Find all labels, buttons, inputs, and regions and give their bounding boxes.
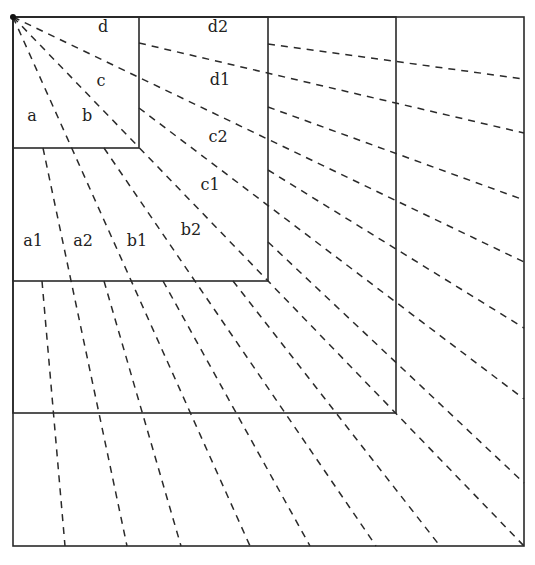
nested-squares-diagram: dcabd2d1c2c1b2a1a2b1	[0, 0, 535, 565]
region-label-c2: c2	[208, 127, 227, 146]
region-label-d2: d2	[208, 17, 228, 36]
dashed-ray-level-2	[139, 108, 524, 399]
region-label-b: b	[82, 106, 92, 125]
region-label-d1: d1	[210, 70, 230, 89]
dashed-ray-level-2	[139, 43, 524, 133]
origin-point	[10, 14, 16, 20]
region-label-b2: b2	[181, 220, 201, 239]
dashed-ray-level-2	[104, 148, 376, 546]
region-label-b1: b1	[127, 231, 147, 250]
region-label-c1: c1	[200, 175, 219, 194]
region-label-a1: a1	[23, 231, 43, 250]
region-label-c: c	[97, 71, 106, 90]
region-label-a2: a2	[73, 231, 93, 250]
region-label-d: d	[98, 17, 108, 36]
dashed-ray-level-2	[43, 148, 127, 546]
region-label-a: a	[27, 106, 37, 125]
labels-group: dcabd2d1c2c1b2a1a2b1	[23, 17, 230, 250]
